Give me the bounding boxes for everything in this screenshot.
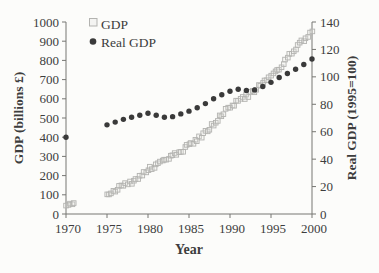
x-axis-tick-label: 1970 xyxy=(55,221,81,236)
gdp-marker xyxy=(246,95,251,100)
left-axis-tick-label: 300 xyxy=(40,149,60,164)
real-gdp-marker xyxy=(260,84,265,89)
gdp-real-gdp-scatter-chart: 1970197519801985199019952000 01002003004… xyxy=(0,0,379,273)
gdp-marker xyxy=(232,103,237,108)
x-axis-tick-label: 1975 xyxy=(96,221,122,236)
real-gdp-marker xyxy=(162,115,167,120)
gdp-marker xyxy=(71,201,76,206)
right-axis-tick-label: 80 xyxy=(320,97,333,112)
real-gdp-marker xyxy=(227,89,232,94)
real-gdp-marker xyxy=(113,119,118,124)
gdp-legend-label: GDP xyxy=(101,17,128,32)
real-gdp-marker xyxy=(244,88,249,93)
left-axis-tick-labels: 01002003004005006007008009001000 xyxy=(33,15,59,222)
real-gdp-marker xyxy=(293,67,298,72)
right-axis-tick-label: 0 xyxy=(320,207,327,222)
left-axis-tick-label: 1000 xyxy=(33,15,59,30)
gdp-legend-marker-icon xyxy=(90,19,98,27)
left-axis-tick-label: 100 xyxy=(40,187,60,202)
axes xyxy=(62,22,316,218)
real-gdp-marker xyxy=(309,56,314,61)
real-gdp-marker xyxy=(121,117,126,122)
real-gdp-marker xyxy=(203,101,208,106)
real-gdp-marker xyxy=(252,87,257,92)
real-gdp-marker xyxy=(154,113,159,118)
legend: GDP Real GDP xyxy=(90,17,157,50)
right-axis-title: Real GDP (1995=100) xyxy=(344,56,359,181)
real-gdp-marker xyxy=(178,111,183,116)
right-axis-tick-label: 100 xyxy=(320,69,340,84)
real-gdp-legend-label: Real GDP xyxy=(101,35,156,50)
real-gdp-marker xyxy=(211,96,216,101)
gdp-marker xyxy=(294,47,299,52)
left-axis-tick-label: 900 xyxy=(40,34,60,49)
real-gdp-marker xyxy=(170,114,175,119)
left-axis-tick-label: 200 xyxy=(40,168,60,183)
left-axis-title: GDP (billions £) xyxy=(11,72,26,164)
x-axis-tick-labels: 1970197519801985199019952000 xyxy=(55,221,327,236)
left-axis-tick-label: 0 xyxy=(53,207,60,222)
left-axis-tick-label: 800 xyxy=(40,53,60,68)
gdp-marker xyxy=(281,62,286,67)
x-axis-tick-label: 1990 xyxy=(219,221,245,236)
gdp-marker xyxy=(199,135,204,140)
real-gdp-legend-marker-icon xyxy=(90,38,97,45)
gdp-series xyxy=(64,29,315,208)
left-axis-tick-label: 700 xyxy=(40,72,60,87)
right-axis-tick-label: 20 xyxy=(320,179,333,194)
x-axis-tick-label: 1985 xyxy=(178,221,204,236)
right-axis-tick-labels: 020406080100120140 xyxy=(320,15,340,222)
real-gdp-marker xyxy=(219,92,224,97)
right-axis-tick-label: 120 xyxy=(320,42,340,57)
real-gdp-marker xyxy=(268,80,273,85)
chart-figure: 1970197519801985199019952000 01002003004… xyxy=(0,0,379,273)
left-axis-tick-label: 600 xyxy=(40,91,60,106)
real-gdp-marker xyxy=(236,87,241,92)
real-gdp-marker xyxy=(63,135,68,140)
gdp-marker xyxy=(306,35,311,40)
real-gdp-marker xyxy=(104,122,109,127)
gdp-marker xyxy=(181,149,186,154)
x-axis-title: Year xyxy=(175,242,203,257)
x-axis-tick-label: 1980 xyxy=(137,221,163,236)
right-axis-tick-label: 140 xyxy=(320,15,340,30)
gdp-marker xyxy=(194,139,199,144)
x-axis-tick-label: 1995 xyxy=(260,221,286,236)
real-gdp-marker xyxy=(129,115,134,120)
real-gdp-marker xyxy=(137,113,142,118)
real-gdp-marker xyxy=(186,108,191,113)
gdp-marker xyxy=(221,112,226,117)
x-axis-tick-label: 2000 xyxy=(301,221,327,236)
real-gdp-marker xyxy=(301,62,306,67)
real-gdp-marker xyxy=(285,71,290,76)
real-gdp-marker xyxy=(145,111,150,116)
real-gdp-marker xyxy=(277,75,282,80)
left-axis-tick-label: 400 xyxy=(40,130,60,145)
right-axis-tick-label: 60 xyxy=(320,124,333,139)
gdp-marker xyxy=(216,119,221,124)
right-axis-tick-label: 40 xyxy=(320,152,333,167)
real-gdp-marker xyxy=(195,105,200,110)
gdp-marker xyxy=(310,29,315,34)
left-axis-tick-label: 500 xyxy=(40,111,60,126)
